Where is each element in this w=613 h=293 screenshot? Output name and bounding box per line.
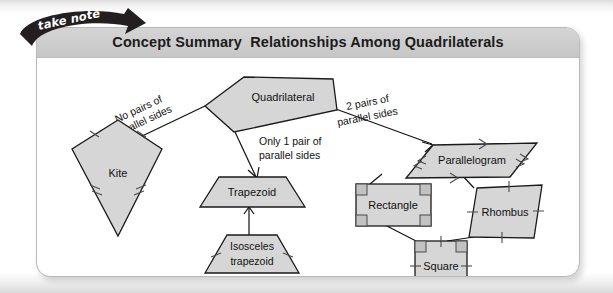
node-square[interactable]: Square xyxy=(410,236,472,276)
concept-summary-figure: Concept Summary Relationships Among Quad… xyxy=(0,0,613,293)
parallelogram-label: Parallelogram xyxy=(438,154,506,166)
node-parallelogram[interactable]: Parallelogram xyxy=(406,139,537,183)
rectangle-right-angle-bl xyxy=(356,215,367,226)
node-kite[interactable]: Kite xyxy=(72,120,162,236)
edge-label-only-1-pair: Only 1 pair of parallel sides xyxy=(259,135,322,161)
take-note-ribbon: take note xyxy=(18,8,168,52)
edge-quadrilateral-trapezoid xyxy=(235,132,256,177)
node-quadrilateral[interactable]: Quadrilateral xyxy=(205,77,337,132)
isosceles-trapezoid-label-line1: Isosceles xyxy=(230,240,274,252)
edge-parallelogram-rectangle xyxy=(370,174,382,184)
square-label: Square xyxy=(423,260,458,272)
rectangle-right-angle-tr xyxy=(420,184,431,195)
rectangle-right-angle-br xyxy=(420,215,431,226)
node-trapezoid[interactable]: Trapezoid xyxy=(200,177,305,207)
square-right-angle-tl xyxy=(415,241,426,252)
edge-label-2-pairs: 2 pairs of parallel sides xyxy=(333,91,398,128)
node-isosceles-trapezoid[interactable]: Isosceles trapezoid xyxy=(205,235,299,273)
trapezoid-label: Trapezoid xyxy=(228,186,277,198)
isosceles-trapezoid-label-line2: trapezoid xyxy=(230,255,273,267)
square-right-angle-tr xyxy=(456,241,467,252)
concept-summary-card: Concept Summary Relationships Among Quad… xyxy=(36,27,580,277)
node-rhombus[interactable]: Rhombus xyxy=(467,181,544,243)
quadrilateral-hierarchy-diagram: No pairs of parallel sides Only 1 pair o… xyxy=(37,57,579,276)
rectangle-label: Rectangle xyxy=(368,199,418,211)
ribbon-arrow-icon xyxy=(18,8,168,52)
node-rectangle[interactable]: Rectangle xyxy=(356,184,431,226)
rectangle-right-angle-tl xyxy=(356,184,367,195)
rhombus-label: Rhombus xyxy=(481,206,529,218)
edge-rectangle-square xyxy=(385,225,416,241)
edge-label-line2: parallel sides xyxy=(259,149,320,161)
kite-label: Kite xyxy=(109,167,128,179)
quadrilateral-label: Quadrilateral xyxy=(252,91,315,103)
quadrilateral-shape xyxy=(205,77,337,132)
edge-label-line1: Only 1 pair of xyxy=(259,135,322,147)
